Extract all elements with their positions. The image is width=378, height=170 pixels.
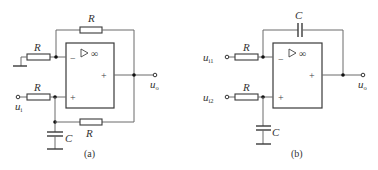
label-r-input-a: R (33, 81, 41, 93)
label-output-a: uo (150, 78, 159, 91)
noninverting-sign-a: + (70, 92, 76, 103)
label-r-feedback-a: R (87, 12, 95, 24)
output-terminal-a (153, 73, 157, 77)
resistor-input2-b (235, 94, 258, 100)
noninverting-sign-b: + (278, 92, 284, 103)
label-r2-b: R (242, 81, 250, 93)
resistor-input1-b (235, 54, 258, 60)
opamp-infinity: ∞ (91, 48, 98, 59)
opamp-infinity: ∞ (299, 48, 306, 59)
circuit-diagrams: ∞ − + + R R R ui R C (0, 0, 378, 170)
circuit-b: ∞ − + + C ui1 R ui2 R C (203, 9, 367, 160)
label-output-b: uo (358, 78, 367, 91)
resistor-ground-a (27, 54, 50, 60)
output-sign-b: + (309, 70, 315, 81)
output-terminal-b (361, 73, 365, 77)
resistor-positive-feedback-a (80, 119, 102, 125)
label-r1-b: R (242, 41, 250, 53)
inverting-sign-b: − (278, 54, 284, 65)
label-r-ground-a: R (33, 41, 41, 53)
resistor-input-a (27, 94, 50, 100)
label-c-b: C (272, 126, 280, 138)
inverting-sign-a: − (70, 53, 76, 64)
input2-terminal-b (225, 95, 229, 99)
label-input2-b: ui2 (203, 91, 214, 104)
caption-a: (a) (84, 148, 95, 160)
circuit-a: ∞ − + + R R R ui R C (13, 12, 159, 160)
caption-b: (b) (291, 148, 303, 160)
label-input1-b: ui1 (203, 51, 214, 64)
output-sign-a: + (101, 70, 107, 81)
label-input-a: ui (15, 100, 23, 113)
label-c-feedback-b: C (295, 9, 303, 21)
input1-terminal-b (225, 55, 229, 59)
label-r-bottom-a: R (85, 127, 93, 139)
label-c-a: C (65, 132, 73, 144)
resistor-feedback-a (80, 27, 102, 33)
input-terminal-a (16, 95, 20, 99)
